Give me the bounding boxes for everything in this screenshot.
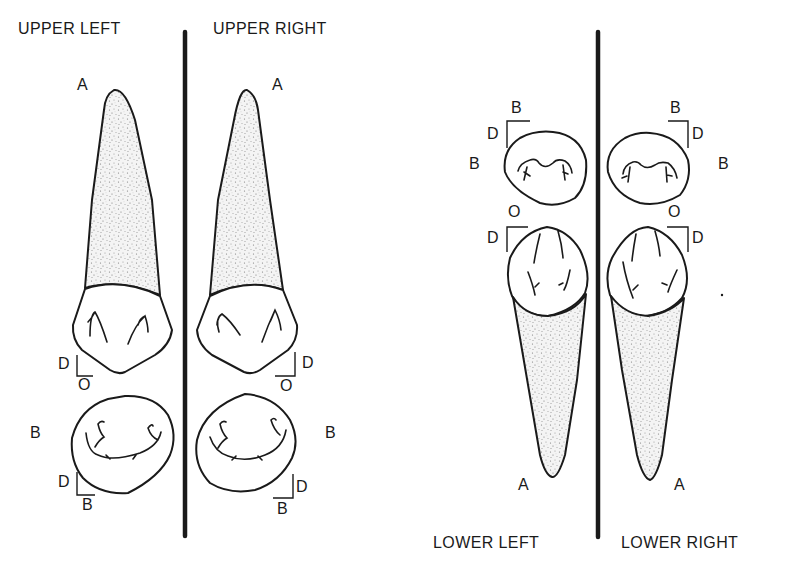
lower-left-crown bbox=[508, 227, 588, 316]
buccal-side-label: B bbox=[718, 155, 729, 173]
lower-right-crown bbox=[607, 227, 687, 316]
distal-label: D bbox=[302, 354, 314, 372]
buccal-label: B bbox=[511, 99, 522, 117]
distal-label: D bbox=[692, 125, 704, 143]
upper-left-tooth bbox=[72, 90, 174, 495]
distal-label: D bbox=[58, 355, 70, 373]
lower-left-root bbox=[513, 294, 586, 477]
distal-label: D bbox=[296, 478, 308, 496]
upper-left-crown bbox=[73, 284, 172, 373]
lower-left-occlusal bbox=[505, 132, 587, 205]
lower-right-occlusal bbox=[608, 133, 689, 204]
occlusal-label: O bbox=[668, 203, 681, 221]
upper-left-occlusal bbox=[72, 396, 174, 493]
quadrant-title-lower-left: LOWER LEFT bbox=[433, 534, 539, 552]
buccal-label: B bbox=[277, 500, 288, 518]
occlusal-label: O bbox=[78, 376, 91, 394]
distal-label: D bbox=[487, 125, 499, 143]
distal-label: D bbox=[487, 229, 499, 247]
lower-right-tooth bbox=[607, 121, 689, 480]
distal-label: D bbox=[58, 473, 70, 491]
upper-left-root bbox=[85, 90, 160, 295]
quadrant-title-upper-left: UPPER LEFT bbox=[18, 20, 121, 38]
apex-label: A bbox=[272, 76, 283, 94]
apex-label: A bbox=[518, 476, 529, 494]
upper-right-root bbox=[210, 90, 283, 295]
lower-left-tooth bbox=[505, 121, 588, 477]
upper-left-crown-axis bbox=[77, 355, 93, 376]
distal-label: D bbox=[692, 229, 704, 247]
buccal-side-label: B bbox=[469, 155, 480, 173]
quadrant-title-lower-right: LOWER RIGHT bbox=[621, 534, 738, 552]
upper-right-crown bbox=[197, 285, 297, 373]
apex-label: A bbox=[674, 476, 685, 494]
upper-right-tooth bbox=[196, 90, 297, 498]
buccal-side-label: B bbox=[325, 424, 336, 442]
buccal-label: B bbox=[82, 496, 93, 514]
buccal-label: B bbox=[670, 99, 681, 117]
quadrant-title-upper-right: UPPER RIGHT bbox=[213, 20, 327, 38]
lower-right-root bbox=[611, 296, 684, 480]
speck-mark bbox=[721, 294, 723, 296]
occlusal-label: O bbox=[280, 377, 293, 395]
buccal-side-label: B bbox=[30, 424, 41, 442]
apex-label: A bbox=[77, 76, 88, 94]
occlusal-label: O bbox=[508, 203, 521, 221]
